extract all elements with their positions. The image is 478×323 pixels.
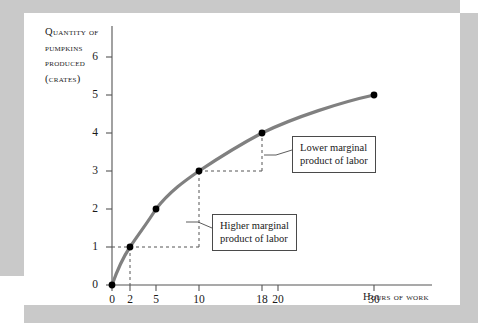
callout-lower-line-1: Lower marginal [300,141,368,154]
production-function-curve [112,95,374,285]
y-tick-label-3: 3 [88,164,102,176]
x-tick-label-2: 2 [123,293,137,305]
data-point-5-2 [153,206,160,213]
callout-higher-line-1: Higher marginal [220,219,289,232]
y-axis-label-line-1: Quantity of [45,24,99,40]
x-tick-label-20: 20 [268,293,288,305]
callout-higher-line-2: product of labor [220,232,289,245]
y-tick-label-0: 0 [88,278,102,290]
x-axis-ticks [112,285,374,291]
dashed-guides [112,133,262,285]
y-tick-label-6: 6 [88,50,102,62]
callout-higher-marginal-product: Higher marginal product of labor [212,214,297,251]
x-tick-label-5: 5 [149,293,163,305]
leader-line-lower [264,150,292,155]
data-points [109,92,378,289]
y-tick-label-5: 5 [88,88,102,100]
y-axis-ticks [106,57,112,285]
data-point-0-0 [109,282,116,289]
data-point-2-1 [127,244,134,251]
x-tick-label-30: 30 [364,293,384,305]
data-point-10-3 [196,168,203,175]
y-tick-label-4: 4 [88,126,102,138]
callout-lower-line-2: product of labor [300,154,368,167]
y-axis-label-line-4: (crates) [45,71,99,87]
x-tick-label-0: 0 [105,293,119,305]
data-point-30-5 [371,92,378,99]
y-tick-label-1: 1 [88,240,102,252]
callout-lower-marginal-product: Lower marginal product of labor [292,136,376,173]
data-point-18-4 [259,130,266,137]
x-tick-label-10: 10 [189,293,209,305]
y-tick-label-2: 2 [88,202,102,214]
